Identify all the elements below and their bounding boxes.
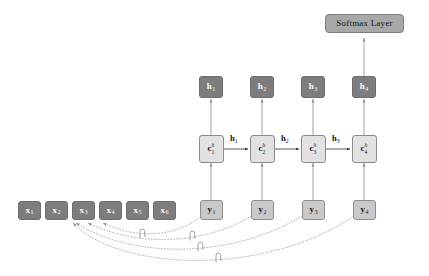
- edges-alignment: [73, 213, 358, 260]
- line-hop-icon: [216, 253, 221, 262]
- hidden-node-h2-label: h2: [258, 82, 266, 92]
- input-node-x1: x1: [18, 201, 41, 220]
- cell-node-c3-label: ch3: [310, 144, 318, 154]
- output-node-y4-label: y4: [361, 205, 369, 215]
- hidden-node-h3: h3: [301, 76, 325, 98]
- output-node-y3-label: y3: [310, 205, 318, 215]
- output-node-y2: y2: [251, 200, 274, 220]
- line-hop-icon: [198, 242, 203, 251]
- recurrent-edge-label-h3: h3: [332, 133, 340, 144]
- cell-node-c1-label: ch1: [208, 144, 216, 154]
- cell-node-c2-label: ch2: [259, 144, 267, 154]
- recurrent-edge-label-h1: h1: [230, 133, 238, 144]
- line-hop-icon: [190, 231, 195, 240]
- input-node-x2: x2: [45, 201, 68, 220]
- hidden-node-h3-label: h3: [309, 82, 317, 92]
- edges-cell-to-hidden: [211, 99, 364, 135]
- output-node-y3: y3: [302, 200, 325, 220]
- recurrent-edge-label-h2: h2: [281, 133, 289, 144]
- input-node-x5-label: x5: [134, 206, 142, 216]
- softmax-layer-node: Softmax Layer: [325, 14, 404, 33]
- edge-y4-to-x3: [73, 213, 358, 260]
- cell-node-c4: ch4: [352, 135, 377, 163]
- hidden-node-h4-label: h4: [360, 82, 368, 92]
- input-node-x4-label: x4: [107, 206, 115, 216]
- output-node-y4: y4: [353, 200, 376, 220]
- diagram-canvas: Softmax Layer h1 h2 h3 h4 ch1 ch2 ch3: [0, 0, 429, 276]
- cell-node-c2: ch2: [250, 135, 275, 163]
- line-hop-icon: [140, 229, 145, 238]
- input-node-x3-label: x3: [80, 206, 88, 216]
- cell-node-c4-label: ch4: [361, 144, 369, 154]
- input-node-x4: x4: [99, 201, 122, 220]
- input-node-x3: x3: [72, 201, 95, 220]
- output-node-y1-label: y1: [208, 205, 216, 215]
- line-hop-markers: [140, 229, 221, 262]
- input-node-x6: x6: [153, 201, 176, 220]
- output-node-y1: y1: [200, 200, 223, 220]
- input-node-x6-label: x6: [161, 206, 169, 216]
- hidden-node-h1: h1: [199, 76, 223, 98]
- hidden-node-h1-label: h1: [207, 82, 215, 92]
- edges-input-to-cell: [211, 163, 364, 200]
- input-node-x5: x5: [126, 201, 149, 220]
- hidden-node-h2: h2: [250, 76, 274, 98]
- input-node-x2-label: x2: [53, 206, 61, 216]
- output-node-y2-label: y2: [259, 205, 267, 215]
- input-node-x1-label: x1: [26, 206, 34, 216]
- softmax-layer-label: Softmax Layer: [336, 19, 392, 28]
- hidden-node-h4: h4: [352, 76, 376, 98]
- cell-node-c1: ch1: [199, 135, 224, 163]
- cell-node-c3: ch3: [301, 135, 326, 163]
